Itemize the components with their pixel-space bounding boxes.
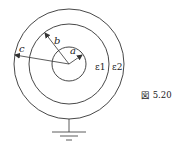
concentric-sphere-diagram: a b c ε1 ε2 (0, 0, 182, 148)
label-c: c (19, 43, 25, 54)
figure-caption: 図 5.20 (141, 88, 172, 100)
ground-icon (52, 119, 86, 140)
radius-c-arrow (15, 55, 69, 64)
radius-a-arrow (69, 55, 82, 64)
label-epsilon-1: ε1 (95, 62, 105, 72)
label-a: a (70, 45, 76, 56)
label-b: b (54, 35, 60, 46)
label-epsilon-2: ε2 (112, 62, 122, 72)
